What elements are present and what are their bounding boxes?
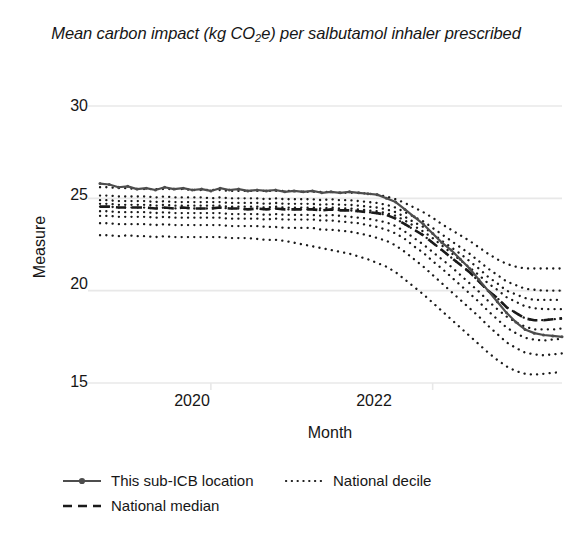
x-axis-label: Month: [100, 424, 560, 442]
solid-line-marker-icon: [62, 474, 102, 488]
chart-title-prefix: Mean carbon impact (kg CO: [51, 24, 255, 42]
chart-title-subscript: 2: [255, 32, 261, 44]
x-tick-2022: 2022: [334, 392, 414, 410]
legend-label-national-median: National median: [111, 497, 219, 514]
plot-area: [0, 0, 572, 537]
chart-legend: This sub-ICB location National decile Na…: [62, 468, 562, 518]
chart-title-suffix: e) per salbutamol inhaler prescribed: [261, 24, 521, 42]
legend-item-national-decile[interactable]: National decile: [284, 472, 431, 489]
chart-title: Mean carbon impact (kg CO2e) per salbuta…: [36, 22, 536, 46]
legend-row-1: This sub-ICB location National decile: [62, 468, 562, 493]
legend-item-national-median[interactable]: National median: [62, 497, 284, 514]
y-tick-15: 15: [44, 373, 88, 391]
legend-label-this-sub-icb-location: This sub-ICB location: [111, 472, 254, 489]
y-tick-20: 20: [44, 275, 88, 293]
legend-item-this-sub-icb-location[interactable]: This sub-ICB location: [62, 472, 284, 489]
chart-container: Mean carbon impact (kg CO2e) per salbuta…: [0, 0, 572, 537]
y-tick-30: 30: [44, 97, 88, 115]
y-tick-25: 25: [44, 186, 88, 204]
dashed-line-icon: [62, 499, 102, 513]
dotted-line-icon: [284, 474, 324, 488]
legend-label-national-decile: National decile: [333, 472, 431, 489]
legend-row-2: National median: [62, 493, 562, 518]
x-tick-2020: 2020: [152, 392, 232, 410]
